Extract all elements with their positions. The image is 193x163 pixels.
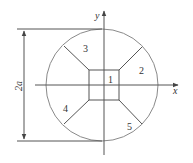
y-axis-label: y (94, 10, 100, 21)
x-axis-label: x (172, 85, 178, 96)
region-1-label: 1 (108, 74, 113, 85)
region-2-label: 2 (139, 65, 144, 76)
region-5-label: 5 (127, 121, 132, 132)
region-3-label: 3 (83, 43, 88, 54)
circle-mesh-diagram: y x 2a 1 2 3 4 5 (0, 0, 193, 163)
dimension-label: 2a (13, 81, 24, 91)
region-4-label: 4 (63, 103, 68, 114)
